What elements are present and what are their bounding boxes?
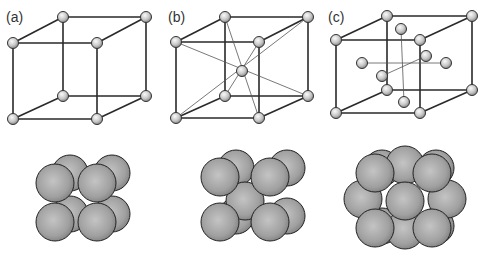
panel-c-label: (c) bbox=[328, 9, 344, 25]
sphere-model-a bbox=[36, 155, 130, 241]
atoms-a bbox=[8, 12, 152, 125]
sphere-model-b bbox=[201, 150, 305, 241]
panel-b-lattice: (b) bbox=[168, 9, 314, 124]
atoms-c bbox=[331, 11, 478, 119]
panel-b-label: (b) bbox=[168, 9, 185, 25]
panel-a-label: (a) bbox=[6, 9, 23, 25]
panel-a-lattice: (a) bbox=[6, 9, 152, 125]
crystal-structures-diagram: (a) (b) bbox=[0, 0, 480, 254]
atoms-b bbox=[171, 12, 314, 124]
sphere-model-c bbox=[344, 146, 466, 249]
panel-c-lattice: (c) bbox=[328, 9, 478, 119]
